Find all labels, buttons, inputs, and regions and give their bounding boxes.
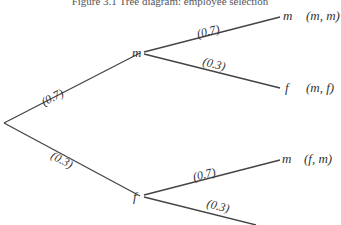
prob-label-f-f: (0.3)	[205, 196, 231, 215]
prob-label-m-m: (0.7)	[195, 22, 221, 41]
branch-root-to-m	[4, 53, 140, 123]
figure-caption: Figure 3.1 Tree diagram: employee select…	[72, 0, 269, 7]
prob-label-m-f: (0.3)	[201, 54, 227, 73]
leaf-m-f-label: f	[285, 80, 291, 95]
prob-label-root-f: (0.3)	[49, 148, 76, 171]
prob-label-root-m: (0.7)	[39, 86, 66, 109]
outcome-m-f: (m, f)	[306, 80, 334, 95]
outcome-m-m: (m, m)	[306, 8, 340, 23]
outcome-f-m: (f, m)	[304, 151, 332, 166]
node-f: f	[133, 189, 139, 204]
branch-f-to-f	[144, 197, 256, 225]
leaf-m-m-label: m	[283, 8, 292, 23]
leaf-f-m-label: m	[282, 151, 291, 166]
prob-label-f-m: (0.7)	[191, 165, 217, 184]
tree-diagram: Figure 3.1 Tree diagram: employee select…	[0, 0, 341, 225]
node-m: m	[132, 45, 141, 60]
